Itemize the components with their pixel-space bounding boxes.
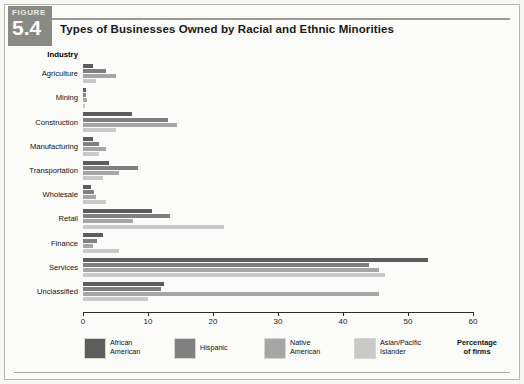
x-axis-tick-label: 0 [81, 317, 85, 326]
legend-label-line1: African [110, 338, 172, 347]
legend-swatch [264, 338, 286, 359]
bar [83, 219, 133, 223]
bar [83, 190, 94, 194]
x-axis-tick [408, 312, 409, 316]
bar [83, 258, 428, 262]
bar [83, 104, 85, 108]
bar [83, 147, 106, 151]
bar [83, 263, 369, 267]
legend-label: Asian/PacificIslander [380, 338, 442, 356]
bar [83, 233, 103, 237]
bar [83, 239, 97, 243]
category-label: Construction [35, 118, 78, 127]
bar [83, 98, 87, 102]
bar [83, 200, 106, 204]
x-axis-tick-label: 10 [144, 317, 153, 326]
legend-label-line2: Islander [380, 347, 442, 356]
chart-title: Types of Businesses Owned by Racial and … [60, 23, 394, 35]
bar [83, 79, 96, 83]
category-axis: Industry AgricultureMiningConstructionMa… [0, 50, 78, 320]
x-axis-title-line2: of firms [444, 347, 510, 356]
bar [83, 214, 170, 218]
bar [83, 209, 152, 213]
bar [83, 123, 177, 127]
x-axis-tick [473, 312, 474, 316]
bar [83, 64, 93, 68]
bar [83, 273, 385, 277]
legend-label: Hispanic [200, 338, 262, 352]
category-label: Agriculture [42, 69, 78, 78]
figure-page: FIGURE 5.4 Types of Businesses Owned by … [0, 0, 524, 384]
x-axis-tick [148, 312, 149, 316]
bar [83, 268, 379, 272]
figure-badge: FIGURE 5.4 [8, 6, 52, 46]
x-axis-tick-label: 40 [339, 317, 348, 326]
x-axis-title-line1: Percentage [444, 338, 510, 347]
category-label: Finance [51, 239, 78, 248]
bar [83, 142, 99, 146]
bar [83, 112, 132, 116]
category-label: Services [49, 263, 78, 272]
bar [83, 297, 148, 301]
bar [83, 195, 96, 199]
legend-swatch [84, 338, 106, 359]
legend-label: AfricanAmerican [110, 338, 172, 356]
footer-divider [14, 372, 510, 373]
x-axis-tick [278, 312, 279, 316]
x-axis-title: Percentage of firms [444, 338, 510, 356]
bar [83, 244, 93, 248]
bar [83, 292, 379, 296]
bar [83, 137, 93, 141]
bar [83, 74, 116, 78]
bar [83, 287, 161, 291]
chart-legend: AfricanAmericanHispanicNativeAmericanAsi… [84, 336, 414, 368]
legend-swatch [354, 338, 376, 359]
bar [83, 161, 109, 165]
legend-swatch [174, 338, 196, 359]
bar [83, 93, 86, 97]
x-axis-tick-label: 50 [404, 317, 413, 326]
category-axis-header: Industry [47, 50, 78, 59]
bar [83, 249, 119, 253]
category-label: Retail [59, 214, 78, 223]
title-divider [52, 18, 510, 20]
bar [83, 185, 91, 189]
category-label: Mining [56, 93, 78, 102]
bar [83, 225, 224, 229]
category-label: Wholesale [43, 190, 78, 199]
bar [83, 69, 106, 73]
legend-label-line1: Hispanic [200, 343, 262, 352]
bar [83, 88, 86, 92]
x-axis-tick [83, 312, 84, 316]
plot-area [83, 62, 473, 312]
bar [83, 171, 119, 175]
legend-label-line2: American [110, 347, 172, 356]
category-label: Unclassified [37, 287, 78, 296]
bar [83, 118, 168, 122]
bar [83, 176, 103, 180]
x-axis-tick-label: 30 [274, 317, 283, 326]
legend-label-line1: Asian/Pacific [380, 338, 442, 347]
legend-label: NativeAmerican [290, 338, 352, 356]
bar [83, 282, 164, 286]
x-axis-tick [343, 312, 344, 316]
bar [83, 152, 99, 156]
figure-badge-number: 5.4 [12, 17, 52, 39]
bar [83, 128, 116, 132]
category-label: Transportation [29, 166, 78, 175]
x-axis-tick-label: 60 [469, 317, 478, 326]
bar [83, 166, 138, 170]
x-axis-tick [213, 312, 214, 316]
category-label: Manufacturing [30, 142, 78, 151]
legend-label-line2: American [290, 347, 352, 356]
legend-label-line1: Native [290, 338, 352, 347]
x-axis-tick-label: 20 [209, 317, 218, 326]
